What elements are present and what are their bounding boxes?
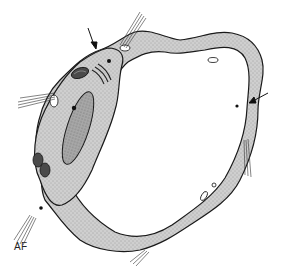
- cell-illustration: [0, 0, 281, 270]
- figure-label-af: AF: [14, 241, 27, 252]
